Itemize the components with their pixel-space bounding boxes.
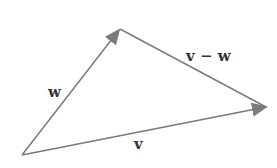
label-w: w	[48, 83, 61, 101]
label-v-minus-w: v − w	[186, 47, 231, 65]
vector-w-arrow	[22, 30, 119, 155]
vector-diagram: w v − w v	[0, 0, 277, 168]
vector-v-arrow	[22, 107, 266, 155]
vector-v-minus-w-arrow	[120, 29, 266, 107]
label-v: v	[134, 135, 143, 153]
